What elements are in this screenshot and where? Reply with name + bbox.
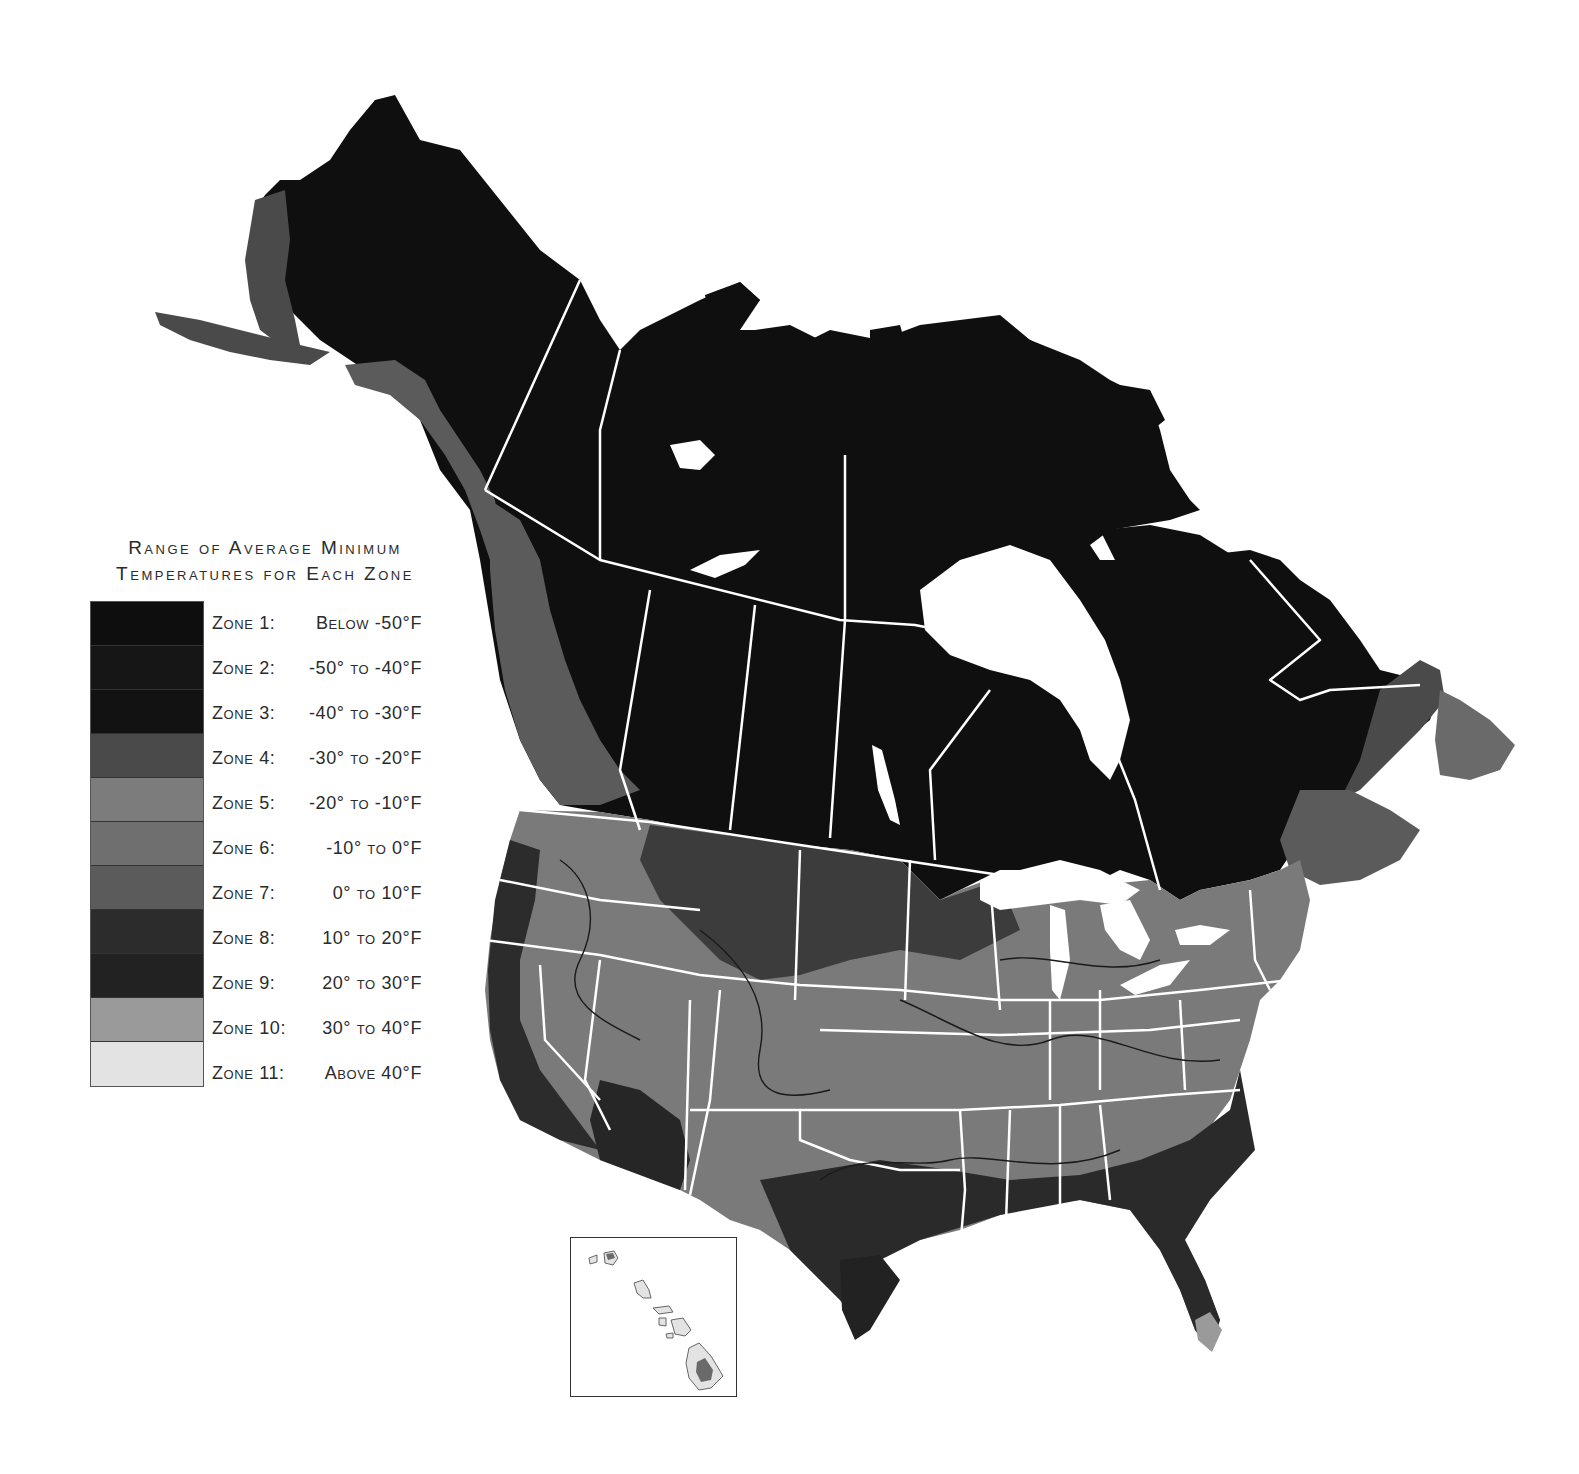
swatch-zone-5 — [91, 778, 203, 822]
legend-title-line-2: Temperatures for Each Zone — [100, 561, 430, 587]
newfoundland — [1435, 690, 1515, 780]
zone-label: Zone 7: — [212, 883, 292, 904]
south-texas-zone-9 — [840, 1255, 900, 1340]
swatch-zone-6 — [91, 822, 203, 866]
legend-row-zone-6: Zone 6:-10° to 0°F — [212, 826, 422, 871]
island-kahoolawe — [666, 1333, 673, 1338]
legend-labels: Zone 1:Below -50°F Zone 2:-50° to -40°F … — [212, 601, 422, 1096]
zone-label: Zone 3: — [212, 703, 292, 724]
island-niihau — [589, 1255, 597, 1264]
zone-label: Zone 1: — [212, 613, 292, 634]
legend-row-zone-1: Zone 1:Below -50°F — [212, 601, 422, 646]
zone-range: 20° to 30°F — [292, 973, 422, 994]
zone-range: 10° to 20°F — [292, 928, 422, 949]
legend-row-zone-3: Zone 3:-40° to -30°F — [212, 691, 422, 736]
zone-range: -30° to -20°F — [292, 748, 422, 769]
zone-range: Above 40°F — [292, 1063, 422, 1084]
legend-swatch-column — [90, 601, 204, 1087]
zone-range: 30° to 40°F — [292, 1018, 422, 1039]
zone-range: Below -50°F — [292, 613, 422, 634]
swatch-zone-7 — [91, 866, 203, 910]
zone-range: -50° to -40°F — [292, 658, 422, 679]
hawaii-map — [571, 1238, 736, 1396]
swatch-zone-10 — [91, 998, 203, 1042]
zone-label: Zone 4: — [212, 748, 292, 769]
island-molokai — [653, 1306, 673, 1314]
swatch-zone-4 — [91, 734, 203, 778]
zone-range: -20° to -10°F — [292, 793, 422, 814]
swatch-zone-8 — [91, 910, 203, 954]
legend-row-zone-8: Zone 8:10° to 20°F — [212, 916, 422, 961]
swatch-zone-11 — [91, 1042, 203, 1086]
hawaii-inset — [570, 1237, 737, 1397]
legend-row-zone-7: Zone 7:0° to 10°F — [212, 871, 422, 916]
zone-range: -10° to 0°F — [292, 838, 422, 859]
legend-row-zone-2: Zone 2:-50° to -40°F — [212, 646, 422, 691]
zone-range: 0° to 10°F — [292, 883, 422, 904]
zone-label: Zone 10: — [212, 1018, 292, 1039]
zone-label: Zone 8: — [212, 928, 292, 949]
island-oahu — [634, 1280, 651, 1298]
legend-row-zone-11: Zone 11:Above 40°F — [212, 1051, 422, 1096]
zone-label: Zone 6: — [212, 838, 292, 859]
swatch-zone-3 — [91, 690, 203, 734]
swatch-zone-9 — [91, 954, 203, 998]
zone-label: Zone 11: — [212, 1063, 292, 1084]
island-maui — [671, 1318, 691, 1336]
legend-row-zone-4: Zone 4:-30° to -20°F — [212, 736, 422, 781]
legend-row-zone-5: Zone 5:-20° to -10°F — [212, 781, 422, 826]
swatch-zone-2 — [91, 646, 203, 690]
island-lanai — [659, 1318, 666, 1326]
legend-row-zone-10: Zone 10:30° to 40°F — [212, 1006, 422, 1051]
zone-label: Zone 2: — [212, 658, 292, 679]
legend-title: Range of Average Minimum Temperatures fo… — [100, 535, 430, 587]
legend-row-zone-9: Zone 9:20° to 30°F — [212, 961, 422, 1006]
canada-alaska-landmass — [255, 95, 1440, 900]
legend-title-line-1: Range of Average Minimum — [100, 535, 430, 561]
swatch-zone-1 — [91, 602, 203, 646]
zone-range: -40° to -30°F — [292, 703, 422, 724]
zone-label: Zone 5: — [212, 793, 292, 814]
zone-label: Zone 9: — [212, 973, 292, 994]
